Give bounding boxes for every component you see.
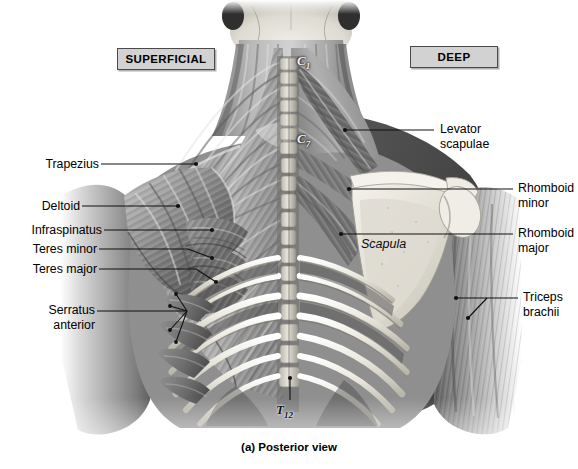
label-levator-scapulae: Levator scapulae — [440, 122, 489, 151]
label-triceps-brachii: Triceps brachii — [523, 290, 563, 319]
label-c1-number: 1 — [306, 61, 311, 71]
label-infraspinatus-text: Infraspinatus — [32, 223, 102, 237]
label-teres-minor-text: Teres minor — [33, 242, 97, 256]
label-rhomboid-minor: Rhomboid minor — [518, 181, 574, 210]
label-serratus-anterior-line2: anterior — [0, 318, 95, 333]
label-teres-major-text: Teres major — [33, 262, 97, 276]
deep-header-box: DEEP — [410, 46, 498, 68]
label-c7-letter: C — [297, 131, 306, 146]
label-rhomboid-major-line1: Rhomboid — [518, 226, 574, 241]
label-scapula: Scapula — [361, 237, 406, 251]
label-serratus-anterior: Serratus anterior — [0, 303, 95, 332]
label-trapezius: Trapezius — [0, 157, 99, 172]
label-levator-scapulae-line1: Levator — [440, 122, 489, 137]
superficial-header-box: SUPERFICIAL — [117, 48, 215, 70]
label-vertebra-t12: T12 — [276, 402, 293, 420]
label-deltoid: Deltoid — [0, 199, 80, 214]
label-triceps-brachii-line2: brachii — [523, 305, 563, 320]
label-rhomboid-major: Rhomboid major — [518, 226, 574, 255]
label-c1-letter: C — [297, 53, 306, 68]
label-vertebra-c7: C7 — [297, 131, 310, 149]
label-teres-major: Teres major — [0, 262, 97, 277]
label-infraspinatus: Infraspinatus — [0, 223, 102, 238]
label-teres-minor: Teres minor — [0, 242, 97, 257]
label-t12-number: 12 — [284, 410, 293, 420]
label-deltoid-text: Deltoid — [42, 199, 80, 213]
label-rhomboid-minor-line1: Rhomboid — [518, 181, 574, 196]
label-triceps-brachii-line1: Triceps — [523, 290, 563, 305]
anatomy-figure: SUPERFICIAL DEEP Trapezius Deltoid Infra… — [0, 0, 578, 469]
label-serratus-anterior-line1: Serratus — [0, 303, 95, 318]
label-levator-scapulae-line2: scapulae — [440, 137, 489, 152]
label-t12-letter: T — [276, 402, 284, 417]
label-trapezius-text: Trapezius — [45, 157, 99, 171]
label-rhomboid-minor-line2: minor — [518, 196, 574, 211]
label-c7-number: 7 — [306, 139, 311, 149]
figure-caption: (a) Posterior view — [0, 441, 578, 453]
label-rhomboid-major-line2: major — [518, 241, 574, 256]
vertebral-column — [277, 56, 300, 412]
label-vertebra-c1: C1 — [297, 53, 310, 71]
